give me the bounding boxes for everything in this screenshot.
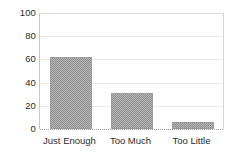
bar-too-much [111, 93, 153, 129]
y-tick-label-60: 60 [2, 55, 36, 65]
y-tick-label-0: 0 [2, 124, 36, 134]
plot-area [39, 13, 224, 129]
x-axis-tick-labels: Just Enough Too Much Too Little [39, 134, 224, 152]
bar-just-enough [50, 57, 92, 129]
gridline-100 [40, 13, 223, 14]
bar-chart: 100 80 60 40 20 0 Just Enough Too Much T… [0, 0, 237, 157]
y-tick-label-40: 40 [2, 78, 36, 88]
x-tick-label-too-much: Too Much [110, 134, 151, 148]
gridline-80 [40, 36, 223, 37]
bar-too-little [172, 122, 214, 129]
x-tick-label-just-enough: Just Enough [43, 134, 96, 148]
y-tick-label-80: 80 [2, 31, 36, 41]
y-tick-label-20: 20 [2, 101, 36, 111]
y-axis-tick-labels: 100 80 60 40 20 0 [0, 13, 36, 129]
x-tick-label-too-little: Too Little [172, 134, 210, 148]
y-tick-label-100: 100 [2, 8, 36, 18]
